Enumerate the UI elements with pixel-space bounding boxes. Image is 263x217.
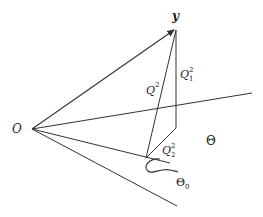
theta0-label-sub: 0 [185,183,189,191]
q2-label-sub: 2 [171,151,175,159]
subspace-line-lower [32,129,177,206]
theta0-label: Θ [176,176,185,189]
q-label-sup: 2 [155,81,159,89]
q-label: Q [146,84,155,97]
projection-diagram: O y Q 2 Q 2 1 Q 2 2 Θ Θ 0 [0,0,263,217]
origin-label: O [12,122,22,136]
vector-y-label: y [171,9,180,23]
q1-label-sub: 1 [189,75,193,83]
subspace-line-upper [32,93,252,129]
q1-label-sup: 2 [189,66,193,74]
q1-label: Q [180,68,189,81]
vector-y-line [32,30,174,129]
theta-label: Θ [206,134,216,148]
q2-label: Q [162,144,171,157]
q2-label-sup: 2 [171,142,175,150]
